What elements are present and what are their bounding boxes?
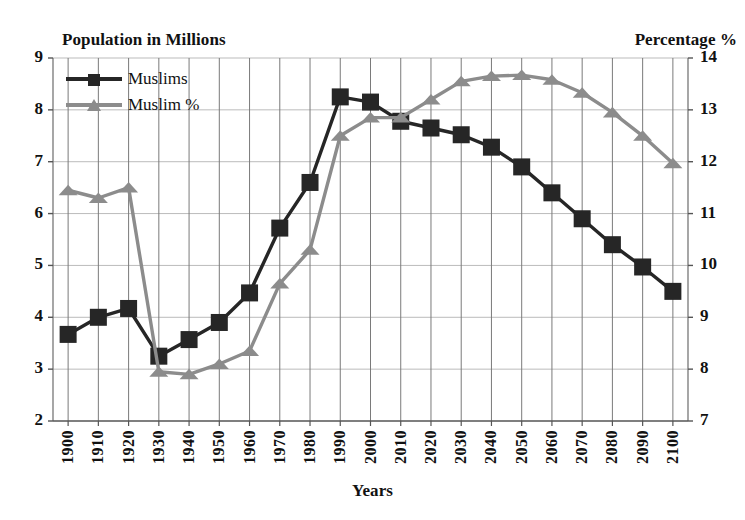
legend-swatch-muslim-percent bbox=[66, 96, 122, 114]
data-point-square bbox=[332, 88, 349, 105]
data-point-triangle bbox=[270, 278, 289, 289]
data-point-square bbox=[634, 258, 651, 275]
legend-label-muslim-percent: Muslim % bbox=[128, 95, 199, 115]
data-point-square bbox=[362, 94, 379, 111]
data-point-triangle bbox=[59, 185, 78, 196]
legend-swatch-muslims bbox=[66, 70, 122, 88]
data-point-square bbox=[211, 314, 228, 331]
data-point-square bbox=[302, 174, 319, 191]
data-point-square bbox=[241, 284, 258, 301]
chart-container: Population in Millions Percentage % Year… bbox=[0, 0, 745, 520]
legend-item-muslim-percent: Muslim % bbox=[66, 92, 216, 118]
legend-item-muslims: Muslims bbox=[66, 66, 216, 92]
legend-label-muslims: Muslims bbox=[128, 69, 188, 89]
triangle-marker-icon bbox=[87, 99, 101, 111]
data-point-square bbox=[90, 309, 107, 326]
square-marker-icon bbox=[88, 74, 100, 86]
data-point-square bbox=[120, 300, 137, 317]
data-point-square bbox=[422, 120, 439, 137]
data-point-triangle bbox=[301, 244, 320, 255]
data-point-triangle bbox=[240, 345, 259, 356]
data-point-square bbox=[271, 220, 288, 237]
data-point-square bbox=[181, 331, 198, 348]
data-point-square bbox=[543, 184, 560, 201]
data-point-square bbox=[483, 139, 500, 156]
data-point-square bbox=[453, 126, 470, 143]
data-point-square bbox=[574, 210, 591, 227]
data-point-square bbox=[604, 236, 621, 253]
chart-legend: Muslims Muslim % bbox=[66, 66, 216, 118]
data-point-square bbox=[60, 326, 77, 343]
data-point-square bbox=[513, 158, 530, 175]
data-point-triangle bbox=[119, 182, 138, 193]
data-point-square bbox=[664, 283, 681, 300]
